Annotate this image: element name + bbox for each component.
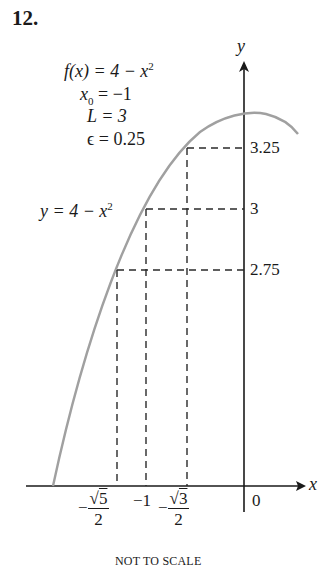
x-axis-label: x xyxy=(309,474,317,495)
radicand: 5 xyxy=(99,489,108,508)
given-epsilon: ϵ = 0.25 xyxy=(87,129,145,150)
denominator: 2 xyxy=(174,509,183,528)
curve-label-exponent: 2 xyxy=(107,200,113,212)
not-to-scale-note: NOT TO SCALE xyxy=(115,554,201,569)
y-tick-2.75: 2.75 xyxy=(250,260,280,280)
given-x0: x0 = −1 xyxy=(80,84,132,107)
given-function: f(x) = 4 − x2 xyxy=(64,60,154,82)
given-L: L = 3 xyxy=(87,106,127,127)
radicand: 3 xyxy=(179,489,188,508)
x-tick-neg-sqrt5-over-2: −√52 xyxy=(78,490,109,528)
function-exponent: 2 xyxy=(148,60,154,72)
parabola-curve xyxy=(53,113,298,486)
curve-label-text: y = 4 − x xyxy=(40,201,107,221)
y-tick-3.25: 3.25 xyxy=(250,138,280,158)
x-tick-neg-1: −1 xyxy=(133,491,151,511)
graph xyxy=(0,0,335,572)
y-tick-3: 3 xyxy=(250,199,259,219)
x0-variable: x xyxy=(80,84,88,104)
function-text: f(x) = 4 − x xyxy=(64,61,148,81)
sign: − xyxy=(158,498,168,517)
y-axis-label: y xyxy=(237,36,245,57)
denominator: 2 xyxy=(94,509,103,528)
x0-value: = −1 xyxy=(94,84,132,104)
x-tick-neg-sqrt3-over-2: −√32 xyxy=(158,490,189,528)
origin-label: 0 xyxy=(252,491,261,511)
curve-label: y = 4 − x2 xyxy=(40,200,113,222)
sign: − xyxy=(78,498,88,517)
